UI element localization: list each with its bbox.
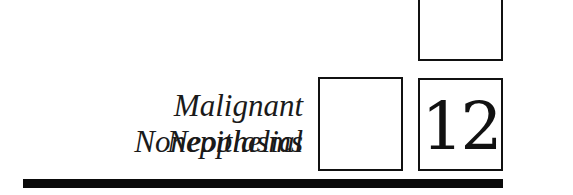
chapter-title-line-2: Neoplasms	[167, 124, 303, 160]
decorative-box-top	[418, 0, 503, 61]
title-underline-rule	[23, 179, 503, 188]
chapter-number-box: 12	[418, 78, 503, 171]
decorative-box-empty	[318, 77, 403, 171]
chapter-number: 12	[422, 94, 500, 160]
